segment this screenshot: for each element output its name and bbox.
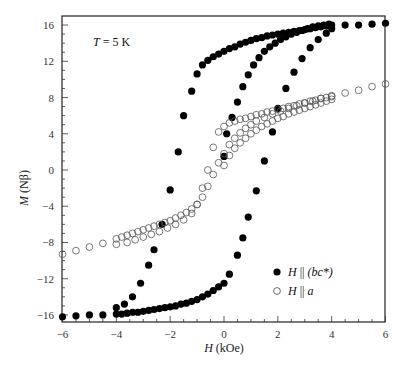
hysteresis-chart: −6−4−20246−16−12−8−40481216 T = 5 K M (N…	[0, 0, 403, 371]
data-point-open	[226, 141, 233, 148]
data-point-open	[99, 240, 106, 247]
data-point-filled	[137, 280, 144, 287]
data-point-filled	[121, 300, 128, 307]
data-point-filled	[99, 311, 106, 318]
legend-filled-circle-icon	[273, 268, 280, 275]
data-point-filled	[188, 88, 195, 95]
data-point-open	[221, 123, 228, 130]
x-tick-label: 6	[383, 328, 389, 340]
y-axis-title: M (Nβ)	[17, 170, 31, 207]
data-point-open	[199, 194, 206, 201]
data-point-filled	[234, 98, 241, 105]
data-point-open	[369, 83, 376, 90]
data-point-open	[194, 201, 201, 208]
y-tick-label: −4	[42, 200, 54, 212]
data-point-filled	[129, 293, 136, 300]
data-point-open	[342, 90, 349, 97]
data-point-filled	[180, 112, 187, 119]
data-point-filled	[315, 36, 322, 43]
data-point-filled	[368, 21, 375, 28]
data-point-filled	[59, 313, 66, 320]
y-tick-label: 4	[49, 128, 55, 140]
data-point-filled	[223, 130, 230, 137]
data-point-filled	[255, 54, 262, 61]
data-point-open	[231, 135, 238, 142]
data-point-open	[210, 144, 217, 151]
axis-ticks	[62, 25, 386, 322]
data-point-filled	[234, 252, 241, 259]
data-point-open	[124, 239, 131, 246]
data-point-filled	[193, 70, 200, 77]
data-point-open	[253, 118, 260, 125]
data-point-open	[86, 244, 93, 251]
data-point-open	[140, 234, 147, 241]
temperature-annotation: T = 5 K	[93, 35, 130, 49]
y-tick-label: 8	[49, 92, 55, 104]
data-point-open	[156, 228, 163, 235]
y-tick-label: 0	[49, 164, 55, 176]
y-tick-label: −16	[37, 309, 55, 321]
data-point-filled	[355, 21, 362, 28]
data-point-filled	[86, 311, 93, 318]
data-point-open	[73, 247, 80, 254]
y-tick-label: −8	[42, 236, 54, 248]
y-tick-label: 16	[43, 19, 55, 31]
data-point-open	[148, 231, 155, 238]
data-point-filled	[282, 85, 289, 92]
data-point-open	[355, 87, 362, 94]
legend: H || (bc*) H || a	[273, 265, 332, 298]
data-point-filled	[239, 234, 246, 241]
x-axis-title: H (kOe)	[203, 341, 244, 355]
data-point-filled	[150, 246, 157, 253]
data-point-filled	[175, 148, 182, 155]
y-tick-label: −12	[37, 273, 54, 285]
data-point-filled	[328, 25, 335, 32]
data-point-open	[210, 171, 217, 178]
data-point-filled	[342, 21, 349, 28]
data-point-filled	[269, 128, 276, 135]
x-tick-label: −4	[110, 328, 122, 340]
data-point-open	[132, 236, 139, 243]
x-tick-label: 2	[275, 328, 281, 340]
data-point-filled	[298, 55, 305, 62]
data-point-filled	[199, 61, 206, 68]
legend-open-circle-icon	[274, 288, 281, 295]
data-point-filled	[220, 280, 227, 287]
x-tick-label: 4	[329, 328, 335, 340]
x-tick-label: 0	[221, 328, 227, 340]
data-point-open	[215, 129, 222, 136]
data-point-filled	[239, 83, 246, 90]
data-point-filled	[307, 44, 314, 51]
data-point-filled	[253, 187, 260, 194]
x-tick-label: −2	[164, 328, 176, 340]
data-point-filled	[245, 214, 252, 221]
data-point-filled	[261, 157, 268, 164]
data-point-filled	[250, 61, 257, 68]
data-point-filled	[226, 271, 233, 278]
data-point-open	[215, 159, 222, 166]
data-point-filled	[382, 20, 389, 27]
legend-label-a: H || a	[287, 284, 313, 298]
data-points	[59, 20, 389, 321]
data-point-filled	[290, 69, 297, 76]
data-point-filled	[167, 186, 174, 193]
x-tick-label: −6	[57, 328, 69, 340]
data-point-filled	[145, 262, 152, 269]
data-point-filled	[113, 304, 120, 311]
y-tick-label: 12	[43, 55, 54, 67]
data-point-filled	[245, 71, 252, 78]
legend-label-bc: H || (bc*)	[287, 265, 333, 279]
data-point-filled	[72, 312, 79, 319]
